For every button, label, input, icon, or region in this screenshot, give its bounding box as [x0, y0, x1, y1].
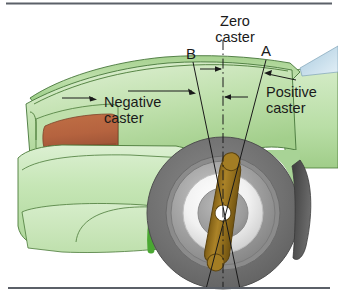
caster-angle-figure: Zero caster Negative caster Positive cas…: [0, 0, 338, 306]
label-zero-caster: Zero caster: [204, 13, 266, 45]
label-positive-caster: Positive caster: [266, 84, 317, 116]
label-negative-caster: Negative caster: [104, 94, 161, 126]
caster-diagram-svg: [0, 0, 338, 306]
label-line-b: B: [186, 46, 196, 63]
label-line-a: A: [261, 43, 271, 60]
windshield-glass: [300, 46, 338, 76]
